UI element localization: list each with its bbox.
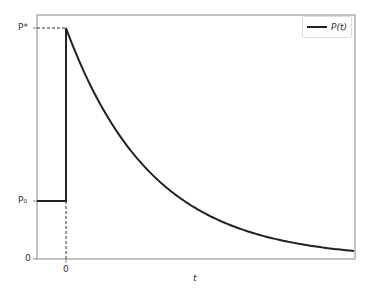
chart-figure: P* P₀ 0 0 t P(t) [0,0,371,296]
axes-frame [37,15,355,259]
y-tick-p0-label: P₀ [18,195,27,205]
legend-line-swatch [307,26,327,28]
y-tick-zero-label: 0 [25,253,31,263]
x-axis-label: t [193,273,197,283]
y-tick-pstar-label: P* [18,22,28,32]
series-p-of-t [37,28,354,251]
plot-area [0,0,371,296]
legend-label: P(t) [331,22,347,32]
x-tick-zero-label: 0 [63,264,69,274]
legend: P(t) [302,16,352,38]
